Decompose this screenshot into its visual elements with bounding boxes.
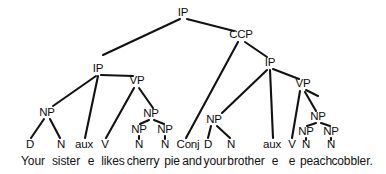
terminal-word-and: and bbox=[182, 155, 202, 167]
tree-branch bbox=[217, 126, 230, 138]
tree-branch bbox=[85, 76, 98, 138]
node-left-subject-np: NP bbox=[39, 107, 55, 119]
tree-branch bbox=[31, 119, 44, 138]
node-left-vp: VP bbox=[130, 75, 145, 87]
tree-branch bbox=[245, 42, 267, 57]
node-pos-d-right: D bbox=[204, 139, 212, 151]
tree-branch bbox=[53, 76, 96, 106]
node-pos-n-obj-d: N bbox=[327, 139, 335, 151]
node-right-object-np: NP bbox=[310, 111, 326, 123]
node-right-object-np-a: NP bbox=[298, 126, 314, 138]
node-pos-n-right: N bbox=[227, 139, 235, 151]
terminal-word-e-2: e bbox=[272, 155, 279, 167]
node-right-object-np-b: NP bbox=[323, 126, 339, 138]
terminal-word-pie: pie bbox=[164, 155, 180, 167]
node-left-object-np-b: NP bbox=[157, 124, 173, 136]
node-left-object-np: NP bbox=[143, 108, 159, 120]
node-pos-n-obj-b: N bbox=[161, 139, 169, 151]
node-pos-v-left: V bbox=[101, 139, 108, 151]
tree-branch bbox=[101, 75, 133, 76]
tree-branch bbox=[187, 19, 234, 31]
node-right-subject-np: NP bbox=[206, 114, 222, 126]
node-pos-aux-left: aux bbox=[75, 139, 93, 151]
terminal-word-peach: peach bbox=[300, 155, 332, 167]
node-pos-n-obj-a: N bbox=[135, 139, 143, 151]
tree-branch bbox=[222, 70, 267, 113]
node-pos-v-right: V bbox=[288, 139, 295, 151]
terminal-word-your-2: your bbox=[204, 155, 227, 167]
terminal-word-e-1: e bbox=[88, 155, 95, 167]
node-ccp: CCP bbox=[229, 29, 253, 41]
tree-branch bbox=[103, 19, 180, 55]
terminal-word-brother: brother bbox=[227, 155, 264, 167]
tree-branch bbox=[270, 70, 273, 138]
node-pos-d-left: D bbox=[26, 139, 34, 151]
terminal-word-your-1: Your bbox=[21, 155, 45, 167]
terminal-word-sister: sister bbox=[52, 155, 80, 167]
terminal-word-cobbler: cobbler. bbox=[331, 155, 372, 167]
node-right-vp: VP bbox=[296, 78, 311, 90]
tree-branch bbox=[306, 90, 318, 96]
node-root-ip: IP bbox=[178, 7, 188, 19]
terminal-word-e-3: e bbox=[289, 155, 296, 167]
terminal-word-cherry: cherry bbox=[127, 155, 160, 167]
terminal-word-likes: likes bbox=[101, 155, 125, 167]
node-left-ip: IP bbox=[93, 63, 103, 75]
node-pos-conj: Conj bbox=[177, 139, 200, 151]
tree-branch bbox=[106, 88, 134, 138]
tree-branch bbox=[305, 92, 316, 111]
tree-branch bbox=[50, 119, 60, 138]
node-pos-n-obj-c: N bbox=[302, 139, 310, 151]
node-right-ip: IP bbox=[265, 57, 275, 69]
node-pos-n-left: N bbox=[57, 139, 65, 151]
node-pos-aux-right: aux bbox=[263, 139, 281, 151]
syntax-tree-figure: IPCCPIPIPVPVPNPNPNPNPNPNPNPNP DNauxVNNCo… bbox=[0, 0, 386, 174]
node-left-object-np-a: NP bbox=[131, 124, 147, 136]
tree-branch bbox=[208, 126, 211, 138]
tree-branch bbox=[139, 88, 153, 108]
